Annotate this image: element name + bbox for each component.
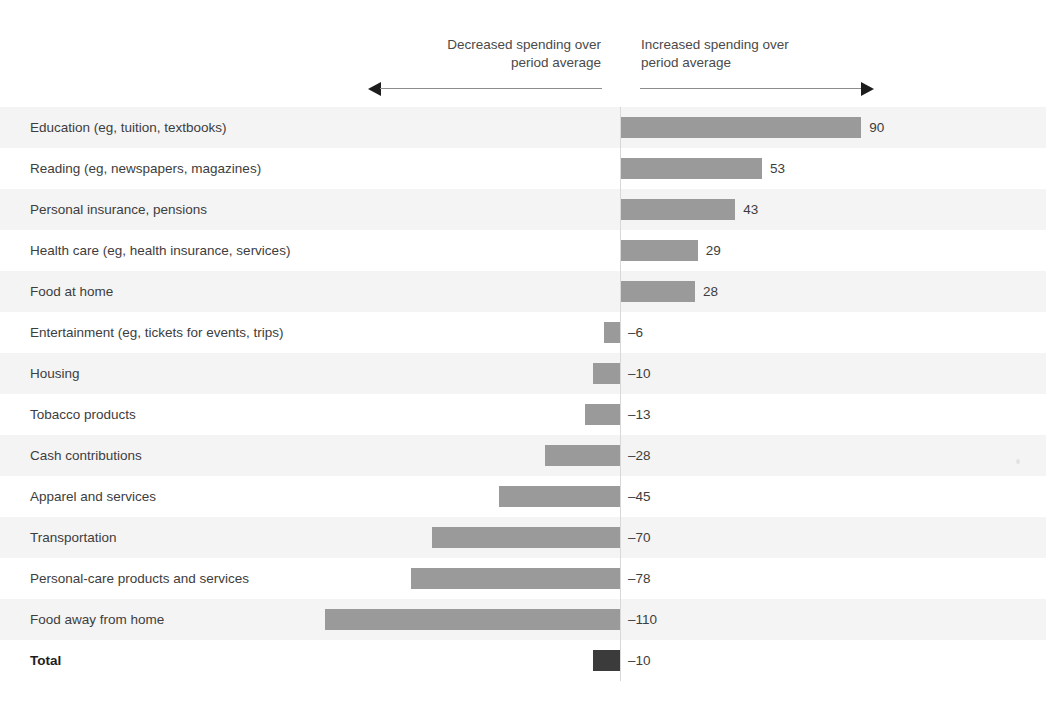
direction-annotation-band: Decreased spending over period average I… — [0, 28, 1046, 100]
table-row[interactable]: Personal insurance, pensions43 — [0, 189, 1046, 230]
diverging-bar-chart: Education (eg, tuition, textbooks)90Read… — [0, 107, 1046, 681]
category-label: Education (eg, tuition, textbooks) — [30, 107, 227, 148]
category-label: Apparel and services — [30, 476, 156, 517]
table-row[interactable]: Total–10 — [0, 640, 1046, 681]
bar — [604, 322, 620, 343]
category-label: Housing — [30, 353, 80, 394]
arrow-right-icon — [640, 82, 874, 96]
bar — [585, 404, 620, 425]
category-label: Total — [30, 640, 61, 681]
decreased-spending-label: Decreased spending over period average — [360, 36, 601, 72]
bar — [620, 117, 861, 138]
bar-value-label: 29 — [706, 230, 721, 271]
category-label: Food away from home — [30, 599, 164, 640]
cropped-top-text — [0, 0, 1046, 10]
arrow-left-line — [380, 88, 602, 89]
zero-axis-line — [620, 107, 621, 681]
bar — [620, 240, 698, 261]
bar — [620, 199, 735, 220]
table-row[interactable]: Reading (eg, newspapers, magazines)53 — [0, 148, 1046, 189]
table-row[interactable]: Personal-care products and services–78 — [0, 558, 1046, 599]
table-row[interactable]: Entertainment (eg, tickets for events, t… — [0, 312, 1046, 353]
category-label: Health care (eg, health insurance, servi… — [30, 230, 290, 271]
arrow-right-head — [861, 82, 874, 96]
table-row[interactable]: Health care (eg, health insurance, servi… — [0, 230, 1046, 271]
table-row[interactable]: Cash contributions–28 — [0, 435, 1046, 476]
bar — [325, 609, 620, 630]
bar-value-label: 53 — [770, 148, 785, 189]
bar — [411, 568, 620, 589]
bar-value-label: –13 — [628, 394, 651, 435]
bar — [432, 527, 620, 548]
bar — [593, 363, 620, 384]
bar — [620, 281, 695, 302]
category-label: Personal insurance, pensions — [30, 189, 207, 230]
table-row[interactable]: Tobacco products–13 — [0, 394, 1046, 435]
category-label: Entertainment (eg, tickets for events, t… — [30, 312, 284, 353]
bar — [593, 650, 620, 671]
table-row[interactable]: Apparel and services–45 — [0, 476, 1046, 517]
table-row[interactable]: Housing–10 — [0, 353, 1046, 394]
bar-value-label: –110 — [628, 599, 657, 640]
arrow-left-icon — [368, 82, 602, 96]
bar-value-label: –70 — [628, 517, 651, 558]
arrow-left-head — [368, 82, 381, 96]
bar-value-label: –10 — [628, 353, 651, 394]
category-label: Personal-care products and services — [30, 558, 249, 599]
table-row[interactable]: Transportation–70 — [0, 517, 1046, 558]
bar-value-label: 43 — [743, 189, 758, 230]
arrow-right-line — [640, 88, 862, 89]
category-label: Reading (eg, newspapers, magazines) — [30, 148, 261, 189]
category-label: Tobacco products — [30, 394, 136, 435]
bar-value-label: –45 — [628, 476, 651, 517]
bar-value-label: 90 — [869, 107, 884, 148]
bar — [545, 445, 620, 466]
chart-rows: Education (eg, tuition, textbooks)90Read… — [0, 107, 1046, 681]
table-row[interactable]: Food away from home–110 — [0, 599, 1046, 640]
category-label: Food at home — [30, 271, 113, 312]
bar-value-label: 28 — [703, 271, 718, 312]
table-row[interactable]: Food at home28 — [0, 271, 1046, 312]
category-label: Cash contributions — [30, 435, 142, 476]
bar — [499, 486, 620, 507]
bar-value-label: –10 — [628, 640, 651, 681]
bar-value-label: –28 — [628, 435, 651, 476]
bar-value-label: –78 — [628, 558, 651, 599]
scan-artifact-speck — [1016, 459, 1020, 464]
increased-spending-label: Increased spending over period average — [641, 36, 882, 72]
table-row[interactable]: Education (eg, tuition, textbooks)90 — [0, 107, 1046, 148]
bar — [620, 158, 762, 179]
bar-value-label: –6 — [628, 312, 643, 353]
category-label: Transportation — [30, 517, 117, 558]
